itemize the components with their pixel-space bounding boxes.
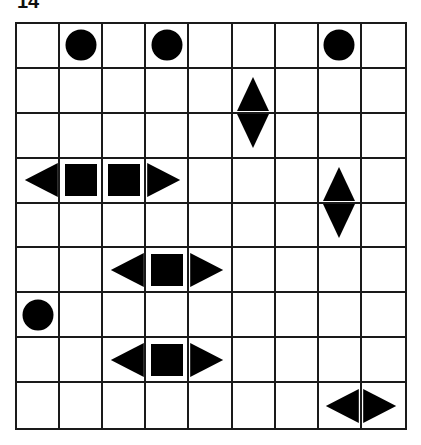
ship-end-right-icon bbox=[364, 389, 397, 423]
grid-cell[interactable] bbox=[103, 69, 146, 114]
ship-end-left-icon bbox=[326, 389, 359, 423]
grid-cell[interactable] bbox=[319, 248, 362, 293]
grid-cell[interactable] bbox=[146, 383, 189, 428]
grid-cell[interactable] bbox=[189, 24, 232, 69]
ship-middle-icon bbox=[151, 344, 183, 376]
grid-cell[interactable] bbox=[103, 383, 146, 428]
grid-cell[interactable] bbox=[233, 24, 276, 69]
grid-cell[interactable] bbox=[146, 159, 189, 204]
ship-end-right-icon bbox=[190, 343, 223, 377]
ship-middle-icon bbox=[108, 164, 140, 196]
grid-cell[interactable] bbox=[189, 338, 232, 383]
grid-cell[interactable] bbox=[17, 24, 60, 69]
grid-cell[interactable] bbox=[17, 204, 60, 249]
grid-cell[interactable] bbox=[276, 293, 319, 338]
grid-cell[interactable] bbox=[17, 383, 60, 428]
grid-cell[interactable] bbox=[146, 338, 189, 383]
grid-cell[interactable] bbox=[60, 383, 103, 428]
grid-cell[interactable] bbox=[276, 114, 319, 159]
grid-cell[interactable] bbox=[362, 248, 405, 293]
ship-end-left-icon bbox=[111, 253, 144, 287]
grid-cell[interactable] bbox=[319, 69, 362, 114]
grid-cell[interactable] bbox=[103, 248, 146, 293]
grid-cell[interactable] bbox=[276, 248, 319, 293]
grid-cell[interactable] bbox=[146, 248, 189, 293]
grid-cell[interactable] bbox=[276, 383, 319, 428]
grid-cell[interactable] bbox=[103, 114, 146, 159]
grid-cell[interactable] bbox=[60, 69, 103, 114]
grid-cell[interactable] bbox=[319, 159, 362, 204]
grid-cell[interactable] bbox=[17, 159, 60, 204]
grid-cell[interactable] bbox=[146, 204, 189, 249]
ship-end-right-icon bbox=[190, 253, 223, 287]
grid-cell[interactable] bbox=[60, 24, 103, 69]
grid-cell[interactable] bbox=[17, 248, 60, 293]
grid-cell[interactable] bbox=[233, 338, 276, 383]
grid-cell[interactable] bbox=[319, 114, 362, 159]
grid-cell[interactable] bbox=[276, 159, 319, 204]
grid-cell[interactable] bbox=[233, 204, 276, 249]
grid-cell[interactable] bbox=[146, 293, 189, 338]
ship-circle-icon bbox=[324, 30, 355, 61]
grid-cell[interactable] bbox=[233, 248, 276, 293]
grid-cell[interactable] bbox=[146, 69, 189, 114]
grid-cell[interactable] bbox=[189, 248, 232, 293]
grid-cell[interactable] bbox=[103, 293, 146, 338]
grid-cell[interactable] bbox=[17, 293, 60, 338]
grid-cell[interactable] bbox=[189, 204, 232, 249]
ship-circle-icon bbox=[151, 30, 182, 61]
grid-cell[interactable] bbox=[146, 114, 189, 159]
grid-cell[interactable] bbox=[276, 338, 319, 383]
ship-end-up-icon bbox=[323, 167, 355, 201]
grid-cell[interactable] bbox=[189, 69, 232, 114]
grid-cell[interactable] bbox=[17, 114, 60, 159]
grid-cell[interactable] bbox=[362, 114, 405, 159]
grid-cell[interactable] bbox=[60, 248, 103, 293]
puzzle-number: 14 bbox=[17, 0, 39, 13]
grid-cell[interactable] bbox=[60, 338, 103, 383]
ship-end-left-icon bbox=[24, 163, 57, 197]
ship-end-up-icon bbox=[237, 77, 269, 111]
grid-cell[interactable] bbox=[103, 338, 146, 383]
grid-cell[interactable] bbox=[103, 24, 146, 69]
grid-cell[interactable] bbox=[17, 69, 60, 114]
grid-cell[interactable] bbox=[319, 383, 362, 428]
grid-cell[interactable] bbox=[362, 69, 405, 114]
grid-cell[interactable] bbox=[60, 293, 103, 338]
ship-end-down-icon bbox=[237, 114, 269, 148]
grid-cell[interactable] bbox=[362, 338, 405, 383]
grid-cell[interactable] bbox=[103, 159, 146, 204]
grid-cell[interactable] bbox=[319, 24, 362, 69]
grid-cell[interactable] bbox=[189, 114, 232, 159]
grid-cell[interactable] bbox=[362, 293, 405, 338]
puzzle-grid bbox=[15, 22, 407, 430]
grid-cell[interactable] bbox=[276, 69, 319, 114]
grid-cell[interactable] bbox=[189, 383, 232, 428]
ship-middle-icon bbox=[151, 254, 183, 286]
grid-cell[interactable] bbox=[233, 114, 276, 159]
grid-cell[interactable] bbox=[362, 383, 405, 428]
grid-cell[interactable] bbox=[276, 204, 319, 249]
grid-cell[interactable] bbox=[233, 383, 276, 428]
grid-cell[interactable] bbox=[362, 159, 405, 204]
grid-cell[interactable] bbox=[319, 204, 362, 249]
grid-cell[interactable] bbox=[146, 24, 189, 69]
ship-circle-icon bbox=[22, 299, 53, 330]
grid-cell[interactable] bbox=[233, 69, 276, 114]
grid-cell[interactable] bbox=[362, 204, 405, 249]
grid-cell[interactable] bbox=[103, 204, 146, 249]
grid-cell[interactable] bbox=[233, 159, 276, 204]
grid-cell[interactable] bbox=[60, 114, 103, 159]
grid-cell[interactable] bbox=[319, 293, 362, 338]
ship-circle-icon bbox=[65, 30, 96, 61]
grid-cell[interactable] bbox=[319, 338, 362, 383]
grid-cell[interactable] bbox=[189, 293, 232, 338]
grid-cell[interactable] bbox=[60, 204, 103, 249]
grid-cell[interactable] bbox=[189, 159, 232, 204]
grid-cell[interactable] bbox=[17, 338, 60, 383]
grid-cell[interactable] bbox=[362, 24, 405, 69]
ship-end-down-icon bbox=[323, 204, 355, 238]
grid-cell[interactable] bbox=[276, 24, 319, 69]
grid-cell[interactable] bbox=[60, 159, 103, 204]
grid-cell[interactable] bbox=[233, 293, 276, 338]
